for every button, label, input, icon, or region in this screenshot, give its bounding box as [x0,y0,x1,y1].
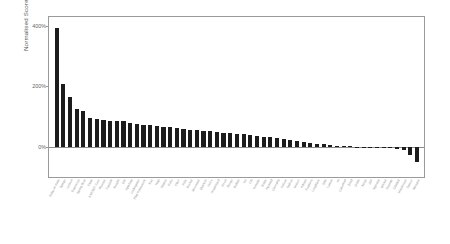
bar [268,137,272,146]
bar [348,146,352,147]
bar [242,134,246,146]
bar [121,121,125,146]
bar [148,125,152,146]
bar [161,127,165,147]
y-axis-title: Normalised Score [22,0,29,51]
bar [61,84,65,146]
bar [75,109,79,146]
bar [335,146,339,147]
bar [68,97,72,147]
bar [55,28,59,146]
bar [288,140,292,147]
bar [255,136,259,147]
bar [235,134,239,147]
bar [188,130,192,147]
bar [402,147,406,150]
x-tick-label: Fiber [175,179,181,187]
bar [88,118,92,147]
bar [215,132,219,147]
bar [415,147,419,163]
bar [101,120,105,147]
bar [168,127,172,146]
bar [308,143,312,147]
bar [201,131,205,147]
bar [388,147,392,149]
bar [315,144,319,147]
y-tick-label: 0% [38,144,46,150]
bar [248,135,252,147]
x-tick-label: Iris [243,179,248,184]
bar [175,128,179,146]
bar [355,147,359,148]
bar [128,123,132,147]
bar [395,147,399,149]
bar [375,147,379,148]
bar [322,144,326,146]
x-tick-label: Koa [149,179,155,185]
bar [195,130,199,147]
bar [81,111,85,147]
plot-area: Normalised Score 0%200%400% [48,16,425,178]
bar [208,131,212,146]
x-axis-tick-labels: Ruby on RailsDjangoLaravelExpress.jsSpri… [48,179,425,239]
bar [181,129,185,147]
x-tick-label: Ruby on Rails [49,179,61,198]
bar [221,133,225,147]
bar [408,147,412,155]
y-tick-label: 400% [32,23,46,29]
bar [275,138,279,146]
x-tick-label: Buffalo [233,179,241,189]
bar [295,141,299,147]
x-tick-label: Echo [168,179,174,187]
bars-layer [49,17,424,177]
bar [382,147,386,148]
bar [262,137,266,147]
bar [135,124,139,147]
bar [282,139,286,147]
x-tick-label: NestJS [113,179,121,189]
bar [368,147,372,148]
bar [228,133,232,147]
chart-figure: Normalised Score 0%200%400% Ruby on Rail… [0,0,450,244]
bar [362,147,366,148]
y-tick-label: 200% [32,83,46,89]
bar [155,126,159,147]
x-tick-label: Lumen [327,179,334,189]
bar [342,146,346,147]
bar [95,119,99,147]
bar [141,125,145,147]
bar [108,121,112,147]
x-tick-label: Grails [354,179,361,188]
bar [115,121,119,147]
bar [302,142,306,147]
bar [328,145,332,147]
